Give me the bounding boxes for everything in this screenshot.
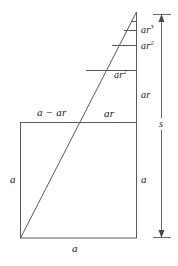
label-step-ar: ar	[141, 90, 150, 100]
label-total-s: s	[158, 118, 164, 130]
arrowhead-top	[159, 14, 165, 22]
label-step-ar2-right: ar2	[141, 41, 154, 51]
geometry-figure: ar3 ar2 ar2 ar a − ar ar a a a s	[0, 0, 178, 266]
label-step-ar3: ar3	[141, 25, 154, 35]
label-band-right: ar	[104, 108, 114, 119]
label-square-left-side: a	[10, 174, 16, 185]
unit-square	[21, 123, 137, 239]
label-column-segment-a: a	[141, 174, 147, 185]
label-band-left: a − ar	[37, 107, 66, 118]
label-square-bottom-side: a	[72, 243, 78, 254]
arrowhead-bottom	[159, 230, 165, 238]
label-step-ar2-left: ar2	[114, 70, 127, 80]
